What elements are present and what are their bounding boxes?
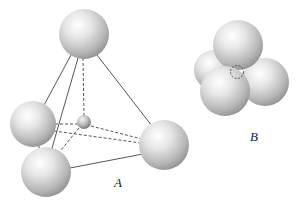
small-central-sphere (77, 115, 91, 129)
sphere-b-top (213, 20, 263, 70)
sphere-left-upper (10, 101, 56, 147)
panel-a (10, 9, 189, 197)
sphere-b-front-left (200, 66, 250, 116)
sphere-right (139, 120, 189, 170)
tetrahedral-hole-diagram (0, 0, 301, 209)
hidden-edges (52, 58, 142, 150)
panel-b-label: B (250, 129, 258, 145)
sphere-left-lower (21, 147, 71, 197)
sphere-top (59, 9, 109, 59)
panel-b (194, 20, 289, 116)
panel-a-label: A (114, 175, 122, 191)
